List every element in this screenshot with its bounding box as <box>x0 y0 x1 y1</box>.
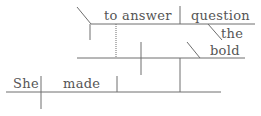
word-object: question <box>191 9 250 22</box>
modifier-slant-bold <box>187 42 200 58</box>
word-adjective: bold <box>210 44 240 57</box>
sentence-diagram: to answer question the bold She made <box>0 0 261 116</box>
word-article: the <box>221 27 243 40</box>
modifier-slant-the <box>208 24 222 40</box>
word-verb: made <box>63 77 100 90</box>
word-subject: She <box>13 77 39 90</box>
infinitive-slant <box>77 7 91 24</box>
word-infinitive: to answer <box>104 9 172 22</box>
